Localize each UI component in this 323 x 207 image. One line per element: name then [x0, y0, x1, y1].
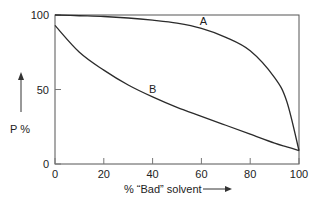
- x-tick-label: 0: [52, 168, 58, 180]
- y-tick-label: 100: [31, 9, 49, 21]
- x-tick-label: 40: [146, 168, 158, 180]
- x-tick-label: 100: [290, 168, 308, 180]
- axis-ticks: [55, 15, 299, 164]
- curve-label-a: A: [200, 15, 208, 27]
- chart: 020406080100050100 AB P % % “Bad” solven…: [0, 0, 323, 207]
- y-tick-label: 0: [43, 158, 49, 170]
- tick-labels: 020406080100050100: [31, 9, 309, 180]
- x-tick-label: 80: [244, 168, 256, 180]
- y-axis-label: P %: [10, 123, 30, 135]
- x-arrowhead-icon: [225, 186, 232, 192]
- y-axis-label-group: P %: [10, 72, 30, 135]
- y-arrowhead-icon: [18, 72, 24, 80]
- curve-labels: AB: [149, 15, 208, 96]
- plot-frame: [55, 15, 299, 164]
- x-axis-label: % “Bad” solvent: [124, 183, 202, 195]
- curve-label-b: B: [149, 83, 156, 95]
- x-tick-label: 20: [98, 168, 110, 180]
- curve-a: [55, 15, 299, 151]
- x-tick-label: 60: [195, 168, 207, 180]
- x-axis-label-group: % “Bad” solvent: [124, 183, 232, 195]
- curve-b: [55, 25, 299, 150]
- curves: [55, 15, 299, 151]
- y-tick-label: 50: [37, 84, 49, 96]
